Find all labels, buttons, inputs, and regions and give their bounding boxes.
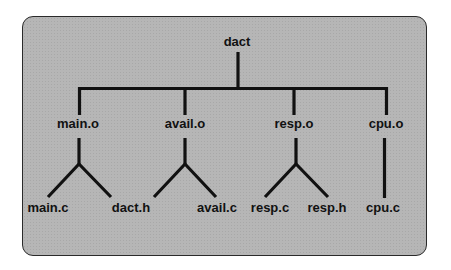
node-cpu-o: cpu.o <box>369 117 404 130</box>
node-root: dact <box>224 35 251 48</box>
node-resp-o: resp.o <box>274 117 313 130</box>
node-avail-c: avail.c <box>197 201 237 214</box>
node-cpu-c: cpu.c <box>366 201 400 214</box>
node-avail-o: avail.o <box>165 117 205 130</box>
node-main-o: main.o <box>57 117 99 130</box>
node-dact-h: dact.h <box>112 201 150 214</box>
node-resp-c: resp.c <box>251 201 289 214</box>
node-resp-h: resp.h <box>307 201 346 214</box>
node-main-c: main.c <box>27 201 68 214</box>
